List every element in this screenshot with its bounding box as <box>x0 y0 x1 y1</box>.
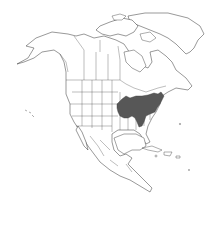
puerto-rico <box>176 156 180 158</box>
arctic-islands <box>96 18 138 36</box>
hawaii-islands <box>25 110 34 117</box>
greenland-landmass <box>128 13 204 54</box>
gulf-of-mexico <box>114 134 146 154</box>
arctic-island-3 <box>140 32 156 42</box>
north-america-mainland <box>17 32 192 192</box>
lesser-antilles <box>188 169 189 170</box>
north-america-map <box>0 0 217 225</box>
range-map <box>0 0 217 225</box>
bermuda <box>179 123 180 124</box>
hispaniola <box>164 152 172 156</box>
jamaica <box>155 155 157 157</box>
